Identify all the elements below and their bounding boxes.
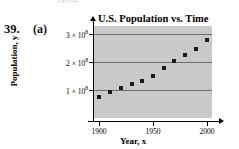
x-axis-tick — [153, 121, 154, 126]
y-axis-tick-label: 1 × 108 — [52, 85, 88, 96]
x-axis-arrow-icon — [219, 118, 224, 124]
data-point — [140, 79, 144, 83]
data-point — [194, 47, 198, 51]
x-axis-title: Year, x — [120, 136, 146, 146]
y-axis-tick — [89, 34, 94, 35]
gridline — [94, 62, 212, 63]
data-point — [162, 66, 166, 70]
data-point — [108, 90, 112, 94]
data-point — [97, 95, 101, 99]
x-axis-tick-label: 1900 — [86, 127, 112, 136]
data-point — [130, 82, 134, 86]
data-point — [172, 59, 176, 63]
chart-title: U.S. Population vs. Time — [98, 13, 208, 24]
x-axis-tick-label: 2000 — [194, 127, 220, 136]
y-axis-line — [93, 20, 94, 122]
x-axis-tick — [99, 121, 100, 126]
data-point — [119, 86, 123, 90]
cropped-text-remnant: 34634 — [56, 0, 78, 3]
data-point — [205, 38, 209, 42]
y-axis-tick — [89, 90, 94, 91]
scatter-plot-area — [94, 26, 212, 118]
y-axis-tick-label: 2 × 108 — [52, 57, 88, 68]
x-axis-tick-label: 1950 — [140, 127, 166, 136]
y-axis-title: Population, y — [9, 19, 19, 103]
data-point — [151, 74, 155, 78]
data-point — [183, 53, 187, 57]
x-axis-tick — [207, 121, 208, 126]
exercise-part-label: (a) — [33, 22, 47, 37]
gridline — [94, 34, 212, 35]
y-axis-tick — [89, 62, 94, 63]
y-axis-tick-label: 3 × 108 — [52, 29, 88, 40]
x-axis-line — [88, 121, 220, 122]
textbook-figure: 34634 39. (a) U.S. Population vs. Time 1… — [0, 0, 239, 149]
